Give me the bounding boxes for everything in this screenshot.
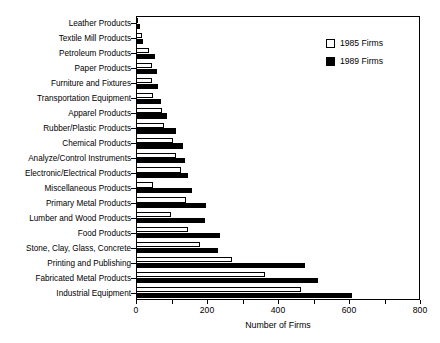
legend-item-1989: 1989 Firms: [326, 56, 383, 67]
x-axis-tick: [207, 300, 208, 304]
x-axis-tick: [172, 300, 173, 304]
x-axis-tick: [385, 300, 386, 304]
category-label: Furniture and Fixtures: [0, 79, 131, 88]
x-axis-tick: [314, 300, 315, 304]
category-label: Paper Products: [0, 64, 131, 73]
legend-item-1985: 1985 Firms: [326, 38, 383, 49]
category-label: Miscellaneous Products: [0, 183, 131, 192]
category-label: Analyze/Control Instruments: [0, 154, 131, 163]
x-axis-tick: [278, 300, 279, 304]
category-label: Food Products: [0, 228, 131, 237]
legend: 1985 Firms 1989 Firms: [326, 38, 383, 74]
category-label: Industrial Equipment: [0, 288, 131, 297]
category-label: Apparel Products: [0, 109, 131, 118]
category-label: Transportation Equipment: [0, 94, 131, 103]
x-axis-title: Number of Firms: [136, 320, 420, 330]
x-axis-tick: [243, 300, 244, 304]
legend-label-1985: 1985 Firms: [340, 38, 383, 49]
x-axis-tick-label: 400: [271, 305, 285, 315]
category-label: Chemical Products: [0, 139, 131, 148]
category-label: Rubber/Plastic Products: [0, 124, 131, 133]
category-label: Leather Products: [0, 19, 131, 28]
legend-swatch-1985: [326, 39, 335, 48]
x-axis-tick-label: 0: [134, 305, 139, 315]
category-label: Printing and Publishing: [0, 258, 131, 267]
category-label: Lumber and Wood Products: [0, 213, 131, 222]
legend-swatch-1989: [326, 57, 335, 66]
legend-label-1989: 1989 Firms: [340, 56, 383, 67]
bar-chart: Leather ProductsTextile Mill ProductsPet…: [0, 0, 440, 343]
x-axis-tick: [349, 300, 350, 304]
category-label: Textile Mill Products: [0, 34, 131, 43]
category-label: Electronic/Electrical Products: [0, 168, 131, 177]
x-axis-tick-label: 800: [413, 305, 427, 315]
x-axis-tick: [136, 300, 137, 304]
category-label: Stone, Clay, Glass, Concrete: [0, 243, 131, 252]
category-label: Fabricated Metal Products: [0, 273, 131, 282]
x-axis-tick-label: 200: [200, 305, 214, 315]
category-label: Petroleum Products: [0, 49, 131, 58]
x-axis-tick-label: 600: [342, 305, 356, 315]
x-axis-ticks: 0200400600800: [136, 300, 420, 320]
x-axis-tick: [420, 300, 421, 304]
category-label: Primary Metal Products: [0, 198, 131, 207]
